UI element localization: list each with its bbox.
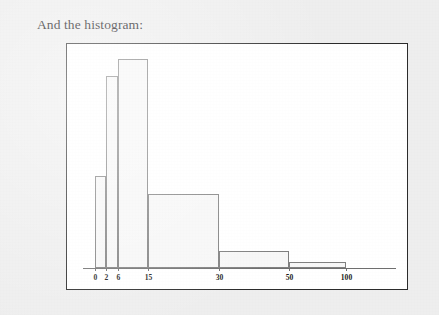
x-axis-tick-label: 6 xyxy=(117,273,121,282)
histogram-bar xyxy=(119,60,148,268)
histogram-bar xyxy=(220,252,289,268)
x-axis-tick-label: 50 xyxy=(286,273,294,282)
x-axis-tick-label: 2 xyxy=(105,273,109,282)
histogram-bar xyxy=(107,77,118,268)
histogram-bar xyxy=(290,263,346,268)
histogram-chart: 026153050100 xyxy=(67,44,406,288)
x-axis-tick-label: 0 xyxy=(94,273,98,282)
x-axis-tick-label: 15 xyxy=(145,273,153,282)
histogram-figure-frame: 026153050100 xyxy=(66,43,408,290)
x-axis-tick-label: 100 xyxy=(341,273,353,282)
x-axis-tick-label: 30 xyxy=(216,273,224,282)
histogram-bar xyxy=(96,177,106,268)
histogram-bar xyxy=(149,195,219,268)
page-caption: And the histogram: xyxy=(37,17,143,33)
